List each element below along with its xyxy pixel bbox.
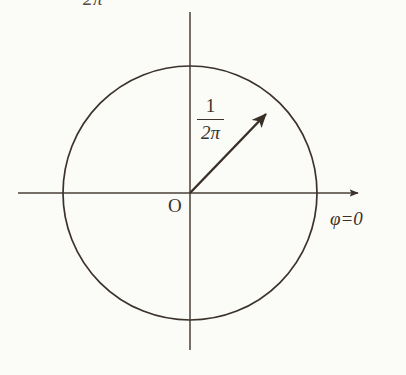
fraction-denominator: 2π	[197, 122, 224, 144]
top-angle-label: 2π	[83, 0, 103, 8]
origin-label: O	[168, 196, 182, 215]
fraction: 1 2π	[197, 96, 224, 143]
phase-axis-label: φ=0	[330, 209, 363, 228]
fraction-bar	[197, 119, 224, 120]
figure-canvas: 2π O φ=0 1 2π	[0, 0, 406, 375]
unit-circle-diagram	[0, 0, 406, 375]
fraction-numerator: 1	[197, 96, 224, 118]
radius-magnitude-label: 1 2π	[197, 96, 224, 143]
